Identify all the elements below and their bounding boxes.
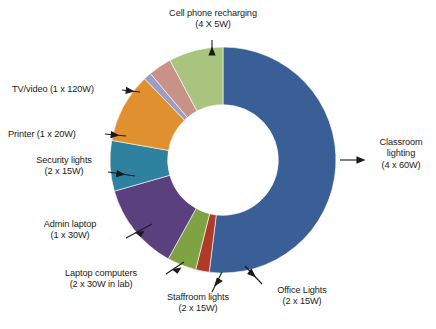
slice-label-security-lights: Security lights (2 x 15W) xyxy=(8,155,120,178)
slice-label-line2: (2 x 15W) xyxy=(146,303,250,314)
slice-label-cell-phone-recharging: Cell phone recharging (4 X 5W) xyxy=(150,8,276,31)
slice-label-line1: Classroom xyxy=(379,137,422,147)
slice-label-line1: Cell phone recharging xyxy=(169,8,257,18)
slice-label-laptop-computers: Laptop computers (2 x 30W in lab) xyxy=(38,268,164,291)
slice-label-line2: lighting xyxy=(366,148,436,159)
slice-label-line2: (2 x 15W) xyxy=(258,296,346,307)
slice-label-line1: Laptop computers xyxy=(65,268,137,278)
slice-label-classroom-lighting: Classroom lighting (4 x 60W) xyxy=(366,137,436,171)
slice-label-staffroom-lights: Staffroom lights (2 x 15W) xyxy=(146,292,250,315)
slice-label-line2: (4 X 5W) xyxy=(150,19,276,30)
slice-label-line2: (2 x 30W in lab) xyxy=(38,279,164,290)
slice-label-printer: Printer (1 x 20W) xyxy=(8,129,120,140)
slice-label-tv-video: TV/video (1 x 120W) xyxy=(12,84,128,95)
donut-slice-classroom-lighting[interactable] xyxy=(209,47,336,273)
donut-slice-layer xyxy=(110,47,336,273)
slice-label-line1: Staffroom lights xyxy=(167,292,229,302)
donut-chart-figure: Cell phone recharging (4 X 5W) TV/video … xyxy=(0,0,436,329)
slice-label-line1: Security lights xyxy=(36,155,92,165)
slice-label-admin-laptop: Admin laptop (1 x 30W) xyxy=(18,219,122,242)
slice-label-line1: TV/video (1 x 120W) xyxy=(12,84,94,94)
slice-label-line1: Printer (1 x 20W) xyxy=(8,129,76,139)
arrow-head-classroom-lighting xyxy=(357,157,364,163)
arrow-head-laptop-computers xyxy=(173,268,180,273)
slice-label-line2: (1 x 30W) xyxy=(18,230,122,241)
slice-label-office-lights: Office Lights (2 x 15W) xyxy=(258,285,346,308)
leader-line-laptop-computers xyxy=(166,262,184,274)
slice-label-line1: Office Lights xyxy=(277,285,327,295)
arrow-head-staffroom-lights xyxy=(215,278,222,285)
slice-label-line2: (2 x 15W) xyxy=(8,166,120,177)
slice-label-line3: (4 x 60W) xyxy=(366,160,436,171)
slice-label-line1: Admin laptop xyxy=(44,219,96,229)
